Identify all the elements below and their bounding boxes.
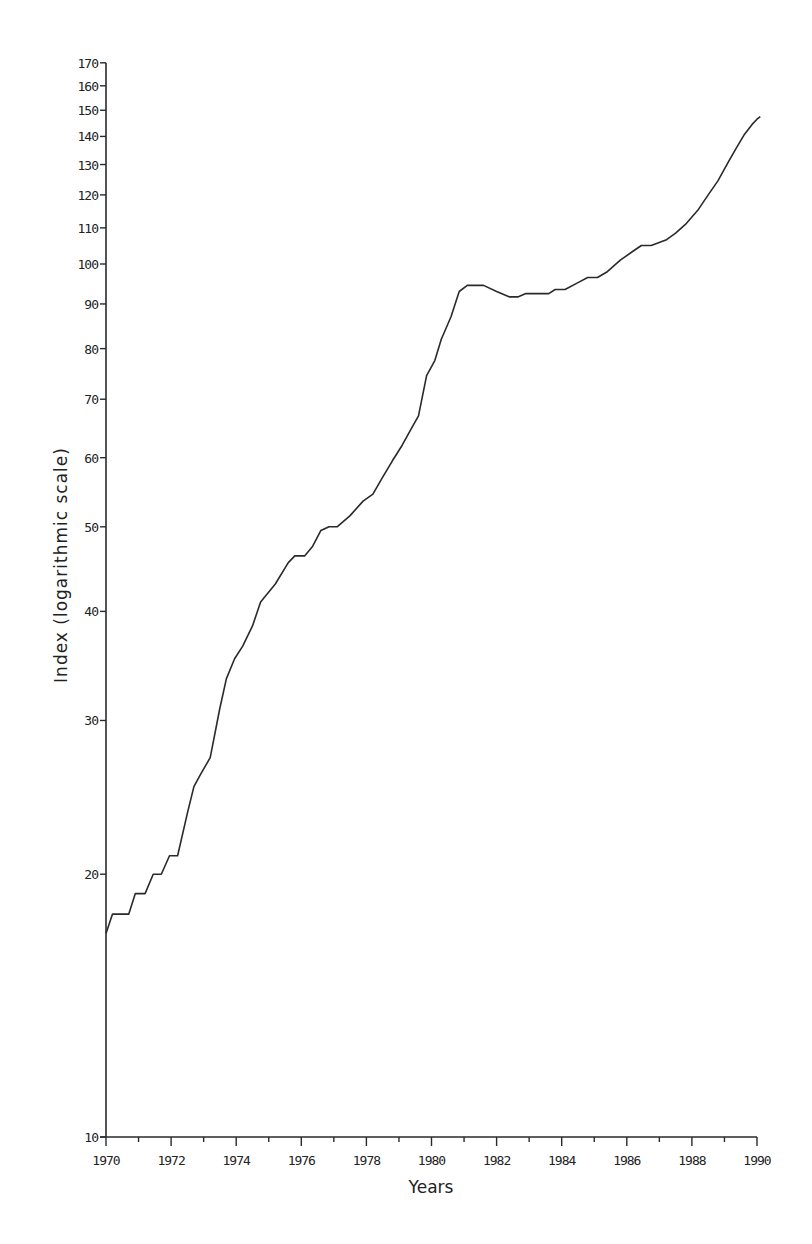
y-tick-label: 30	[84, 713, 98, 728]
x-tick-label: 1988	[678, 1153, 705, 1168]
y-tick-label: 40	[84, 604, 98, 619]
x-tick-label: 1984	[548, 1153, 576, 1168]
index-line	[106, 117, 760, 934]
y-tick-label: 90	[84, 297, 98, 312]
y-tick-label: 50	[84, 520, 98, 535]
y-axis-title: Index (logarithmic scale)	[51, 447, 71, 683]
y-tick-label: 80	[84, 342, 98, 357]
y-tick-label: 20	[84, 867, 98, 882]
x-tick-label: 1986	[613, 1153, 640, 1168]
line-chart: 1020304050607080901001101201301401501601…	[0, 0, 812, 1244]
y-axis: 1020304050607080901001101201301401501601…	[78, 56, 106, 1145]
y-tick-label: 150	[78, 103, 99, 118]
x-tick-label: 1974	[223, 1153, 251, 1168]
x-tick-label: 1978	[353, 1153, 380, 1168]
y-tick-label: 160	[78, 79, 99, 94]
x-axis: 1970197219741976197819801982198419861988…	[92, 1137, 770, 1168]
x-tick-label: 1990	[743, 1153, 770, 1168]
x-tick-label: 1970	[92, 1153, 119, 1168]
y-tick-label: 110	[78, 221, 99, 236]
y-tick-label: 120	[78, 188, 99, 203]
y-tick-label: 10	[84, 1130, 98, 1145]
x-tick-label: 1976	[288, 1153, 315, 1168]
x-tick-label: 1982	[483, 1153, 510, 1168]
y-tick-label: 60	[84, 451, 98, 466]
y-tick-label: 170	[78, 56, 99, 71]
y-tick-label: 100	[78, 257, 99, 272]
y-tick-label: 140	[78, 129, 99, 144]
y-tick-label: 130	[78, 158, 99, 173]
x-tick-label: 1980	[418, 1153, 445, 1168]
x-axis-title: Years	[408, 1177, 454, 1197]
y-tick-label: 70	[84, 392, 98, 407]
x-tick-label: 1972	[157, 1153, 184, 1168]
